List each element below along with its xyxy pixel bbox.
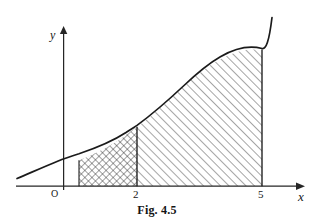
figure-container: y x O 2 5 Fig. 4.5 xyxy=(0,0,314,224)
y-axis xyxy=(60,26,67,190)
cross-hatched-region xyxy=(79,127,137,186)
origin-label: O xyxy=(51,189,58,199)
y-axis-label: y xyxy=(50,29,55,41)
x-axis-label: x xyxy=(298,190,304,203)
x-tick-label-2: 2 xyxy=(133,189,139,200)
figure-plot-canvas xyxy=(0,0,314,224)
figure-caption: Fig. 4.5 xyxy=(0,203,314,218)
x-tick-label-5: 5 xyxy=(258,189,264,200)
